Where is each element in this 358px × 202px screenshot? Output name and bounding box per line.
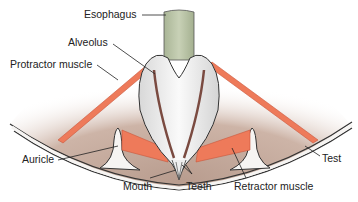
label-retractor-muscle: Retractor muscle [234,180,313,192]
label-esophagus: Esophagus [84,8,137,20]
lantern-diagram: Esophagus Alveolus Protractor muscle Aur… [0,0,358,202]
label-teeth: Teeth [186,180,212,192]
label-auricle: Auricle [22,153,54,165]
esophagus [164,10,194,60]
label-test: Test [322,152,341,164]
label-mouth: Mouth [123,180,152,192]
diagram-artwork [0,0,358,202]
label-protractor-muscle: Protractor muscle [10,58,92,70]
label-alveolus: Alveolus [68,36,108,48]
